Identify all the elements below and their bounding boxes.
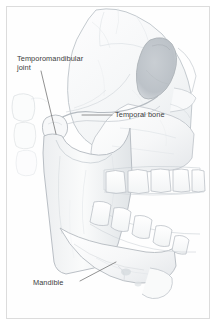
skull-illustration — [0, 0, 217, 326]
upper-dental-arch — [104, 166, 205, 195]
cervical-vertebrae — [12, 94, 47, 176]
anatomy-figure: Temporomandibularjoint Temporal bone Man… — [0, 0, 217, 326]
